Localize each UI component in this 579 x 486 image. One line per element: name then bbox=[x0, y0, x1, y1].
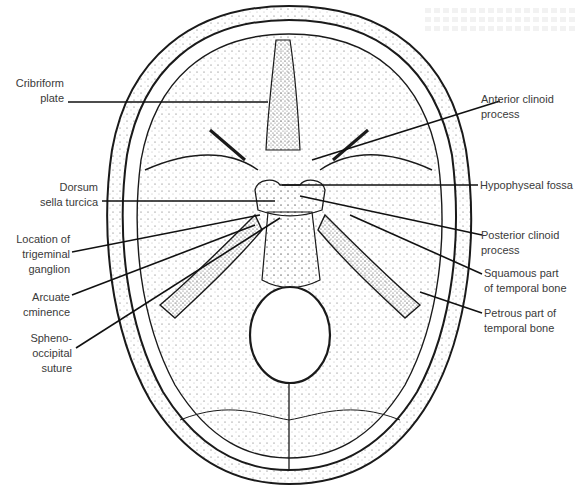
label-squamous-temporal: Squamous part of temporal bone bbox=[484, 266, 567, 296]
label-arcuate-eminence: Arcuate cminence bbox=[4, 290, 70, 320]
label-spheno-occipital-suture: Spheno- occipital suture bbox=[4, 331, 72, 376]
label-hypophyseal-fossa: Hypophyseal fossa bbox=[480, 178, 573, 193]
label-dorsum-sella-turcica: Dorsum sella turcica bbox=[4, 180, 98, 210]
label-trigeminal-ganglion: Location of trigeminal ganglion bbox=[4, 232, 70, 277]
page-show-through bbox=[425, 4, 575, 32]
label-posterior-clinoid-process: Posterior clinoid process bbox=[481, 228, 559, 258]
foramen-magnum bbox=[250, 287, 330, 383]
label-anterior-clinoid-process: Anterior clinoid process bbox=[481, 92, 554, 122]
label-petrous-temporal: Petrous part of temporal bone bbox=[484, 306, 556, 336]
label-cribriform-plate: Cribriform plate bbox=[6, 76, 64, 106]
skull-base-diagram: Cribriform plate Dorsum sella turcica Lo… bbox=[0, 0, 579, 486]
